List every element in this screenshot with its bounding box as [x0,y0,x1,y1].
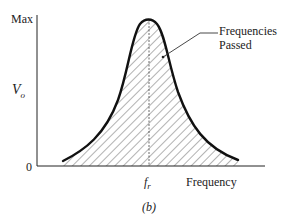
figure-caption: (b) [142,201,156,214]
y-axis-origin-label: 0 [26,161,32,174]
y-axis-title-sub: o [21,90,26,100]
resonant-frequency-label: fr [144,176,151,193]
passed-band-annotation: Frequencies Passed [219,24,277,52]
y-axis-title: Vo [12,83,25,102]
annotation-arrow-dot [162,56,165,59]
x-axis-title: Frequency [186,176,237,189]
y-axis-max-label: Max [11,13,33,26]
resonance-curve-figure: Max Vo 0 fr Frequency Frequencies Passed… [0,0,289,220]
annotation-leader-line [163,33,218,57]
annotation-line-1: Frequencies [219,24,277,38]
resonant-frequency-sub: r [147,181,151,191]
y-axis-title-main: V [12,82,21,97]
annotation-line-2: Passed [219,38,277,52]
